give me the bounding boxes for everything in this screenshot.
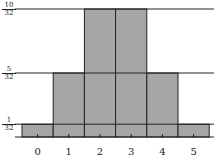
x-tick-label: 1	[59, 146, 79, 157]
x-tick-label: 2	[90, 146, 110, 157]
y-tick-denominator: 32	[2, 125, 16, 132]
y-tick-label: 132	[2, 117, 16, 132]
y-tick-label: 1032	[2, 2, 16, 17]
x-tick-label: 4	[152, 146, 172, 157]
y-tick-denominator: 32	[2, 10, 16, 17]
x-tick-label: 3	[121, 146, 141, 157]
y-tick-label: 532	[2, 66, 16, 81]
y-tick-denominator: 32	[2, 74, 16, 81]
histogram-chart	[0, 0, 218, 159]
bar-1	[53, 73, 84, 137]
x-tick-label: 0	[28, 146, 48, 157]
bar-4	[147, 73, 178, 137]
x-tick-label: 5	[184, 146, 204, 157]
